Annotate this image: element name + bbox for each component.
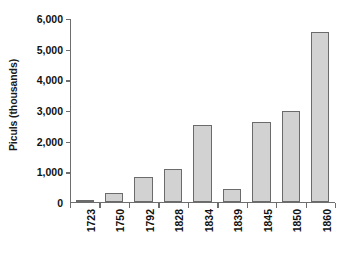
bar <box>282 111 300 202</box>
bar <box>223 189 241 203</box>
bar <box>134 177 152 203</box>
y-axis-title-label: Piculs (thousands) <box>7 59 19 151</box>
plot-area <box>70 19 335 203</box>
bar <box>252 122 270 202</box>
bar <box>311 32 329 202</box>
x-axis-tick-label: 1860 <box>297 207 343 253</box>
y-axis-tick-label: 1,000 <box>37 166 63 178</box>
y-axis-tick-label: 4,000 <box>37 74 63 86</box>
bar <box>193 125 211 203</box>
y-axis-tick-label: 2,000 <box>37 136 63 148</box>
y-axis-tick-labels: 01,0002,0003,0004,0005,0006,000 <box>26 12 68 203</box>
bar <box>105 193 123 202</box>
y-axis-tick-label: 3,000 <box>37 105 63 117</box>
bars-layer <box>70 19 335 203</box>
y-axis-tick-label: 6,000 <box>37 13 63 25</box>
bar <box>76 200 94 202</box>
y-axis-title: Piculs (thousands) <box>0 0 26 210</box>
bar <box>164 169 182 202</box>
bar-chart-figure: Piculs (thousands) 01,0002,0003,0004,000… <box>0 0 343 255</box>
y-axis-tick-label: 5,000 <box>37 44 63 56</box>
x-axis-tick-labels: 172317501792182818341839184518501860 <box>70 207 335 253</box>
